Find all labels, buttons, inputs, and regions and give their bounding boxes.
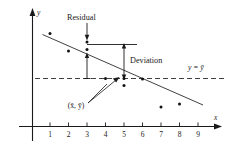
- centroid-leader-line: [88, 80, 116, 103]
- data-point: [104, 77, 107, 80]
- data-point: [67, 50, 70, 53]
- data-point: [86, 48, 89, 51]
- data-points-group: [49, 32, 182, 109]
- scatter-plot-svg: 1 2 3 4 5 6 7 8 9 x y: [0, 0, 231, 150]
- y-axis-label: y: [36, 8, 41, 17]
- figure-root: 1 2 3 4 5 6 7 8 9 x y: [0, 0, 231, 150]
- x-axis-tick-labels: 1 2 3 4 5 6 7 8 9: [48, 130, 200, 139]
- x-axis-arrowhead: [214, 124, 222, 130]
- x-tick-label-1: 1: [48, 130, 52, 139]
- mean-line-label: y = ȳ: [187, 63, 204, 72]
- deviation-arrowhead-up: [122, 43, 126, 49]
- axes-group: [19, 8, 222, 141]
- data-point: [141, 78, 144, 81]
- x-tick-label-5: 5: [122, 130, 126, 139]
- centroid-annotation-group: [88, 77, 120, 103]
- data-point: [49, 32, 52, 35]
- centroid-leader-branch: [88, 84, 107, 103]
- x-tick-label-9: 9: [196, 130, 200, 139]
- x-tick-label-4: 4: [104, 130, 108, 139]
- x-tick-label-8: 8: [178, 130, 182, 139]
- data-point: [178, 103, 181, 106]
- x-tick-label-3: 3: [85, 130, 89, 139]
- data-point: [123, 84, 126, 87]
- x-axis-ticks: [50, 123, 198, 127]
- residual-arrowhead-down: [85, 35, 90, 41]
- centroid-label: (x̄, ȳ): [68, 101, 85, 110]
- x-tick-label-2: 2: [67, 130, 71, 139]
- data-point: [123, 77, 126, 80]
- data-point: [86, 41, 89, 44]
- deviation-label: Deviation: [130, 56, 162, 65]
- data-point: [160, 106, 163, 109]
- residual-label: Residual: [67, 13, 96, 22]
- y-axis-arrowhead: [30, 8, 36, 16]
- deviation-annotation-group: [122, 43, 126, 80]
- x-tick-label-6: 6: [141, 130, 145, 139]
- x-axis-label: x: [213, 113, 218, 122]
- x-tick-label-7: 7: [159, 130, 163, 139]
- regression-line: [43, 35, 204, 106]
